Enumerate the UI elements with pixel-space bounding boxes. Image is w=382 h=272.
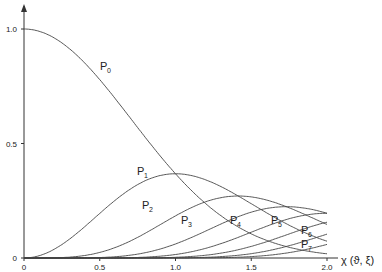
curve-labels: P0P1P2P3P4P5P6P7	[100, 60, 312, 252]
x-tick-label: 0	[22, 263, 27, 272]
x-tick-label: 1.5	[246, 263, 258, 272]
x-tick-label: 0.5	[94, 263, 106, 272]
poisson-curves-chart: 00.51.000.51.01.52.0 P0P1P2P3P4P5P6P7 χ …	[0, 0, 382, 272]
curve-p4	[24, 213, 327, 258]
y-tick-label: 1.0	[6, 25, 18, 34]
label-p6: P6	[301, 224, 312, 238]
svg-text:4: 4	[237, 221, 241, 228]
axes: 00.51.000.51.01.52.0	[6, 4, 338, 272]
svg-text:1: 1	[144, 172, 148, 179]
label-p0: P0	[100, 60, 111, 74]
svg-text:3: 3	[188, 221, 192, 228]
svg-text:2: 2	[149, 206, 153, 213]
x-tick-label: 2.0	[321, 263, 333, 272]
curve-p7	[24, 244, 327, 258]
svg-text:0: 0	[107, 67, 111, 74]
label-p5: P5	[271, 214, 282, 228]
curve-p3	[24, 207, 327, 258]
svg-text:5: 5	[278, 221, 282, 228]
label-p7: P7	[301, 238, 312, 252]
label-p1: P1	[137, 165, 148, 179]
svg-text:6: 6	[308, 231, 312, 238]
y-tick-label: 0	[13, 254, 18, 263]
x-axis-label: χ (ϑ, ξ)	[341, 254, 374, 266]
y-axis-arrow-icon	[21, 4, 27, 12]
label-p2: P2	[142, 199, 153, 213]
label-p3: P3	[181, 214, 192, 228]
y-tick-label: 0.5	[6, 140, 18, 149]
svg-text:7: 7	[308, 245, 312, 252]
x-tick-label: 1.0	[170, 263, 182, 272]
